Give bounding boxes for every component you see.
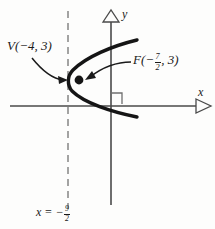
directrix-label-prefix: x = −: [36, 205, 64, 219]
directrix-fraction-denominator: 2: [64, 215, 70, 223]
directrix-label: x = −92: [36, 205, 70, 223]
y-axis-label: y: [122, 8, 127, 20]
focus-label: F(−72, 3): [133, 53, 179, 72]
focus-fraction-numerator: 7: [155, 53, 161, 62]
focus-leader-arrowhead-icon: [85, 71, 96, 80]
vertex-label: V(−4, 3): [7, 39, 52, 52]
y-axis-arrowhead-icon: [103, 10, 119, 22]
focus-label-prefix: F(−: [133, 52, 154, 67]
focus-fraction-denominator: 2: [155, 64, 161, 73]
right-angle-marker-icon: [111, 93, 122, 104]
vertex-leader-arrowhead-icon: [58, 76, 68, 84]
x-axis-arrowhead-icon: [196, 99, 211, 113]
directrix-fraction: 92: [64, 205, 70, 223]
directrix-fraction-numerator: 9: [64, 205, 70, 213]
focus-fraction: 72: [155, 53, 161, 72]
figure-canvas: [0, 0, 215, 229]
x-axis-label: x: [198, 86, 203, 98]
focus-label-suffix: , 3): [161, 52, 178, 67]
parabola-figure: V(−4, 3) F(−72, 3) x y x = −92: [0, 0, 215, 229]
focus-point-dot: [75, 76, 84, 85]
